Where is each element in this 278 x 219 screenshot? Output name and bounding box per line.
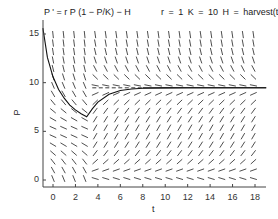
x-tick-label: 14 [205, 193, 215, 202]
equation-title: P ' = r P (1 − P/K) − H [44, 8, 131, 17]
x-tick-label: 2 [73, 193, 78, 202]
solution-curves [43, 28, 266, 117]
slope-field [50, 31, 256, 181]
x-tick-label: 18 [250, 193, 260, 202]
parameters-title: r = 1 K = 10 H = harvest(t) [161, 8, 278, 17]
x-tick-label: 8 [140, 193, 145, 202]
x-tick-label: 10 [160, 193, 170, 202]
y-tick-label: 5 [34, 126, 39, 135]
x-tick-label: 16 [228, 193, 238, 202]
slope-field-chart [0, 0, 278, 219]
x-tick-label: 0 [51, 193, 56, 202]
y-tick-label: 0 [34, 175, 39, 184]
x-tick-label: 12 [183, 193, 193, 202]
y-tick-label: 10 [29, 78, 39, 87]
y-tick-label: 15 [29, 29, 39, 38]
x-axis-label: t [152, 205, 155, 214]
x-tick-label: 4 [95, 193, 100, 202]
x-tick-label: 6 [118, 193, 123, 202]
y-axis-label: P [13, 109, 22, 115]
